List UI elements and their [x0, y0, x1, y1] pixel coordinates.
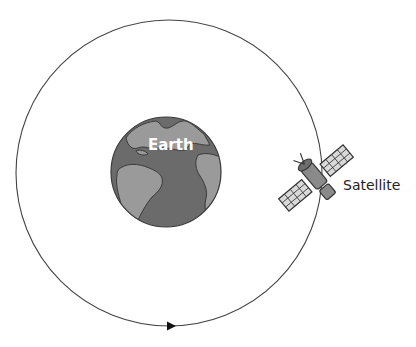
orbit-diagram: Earth Satellite [0, 0, 416, 347]
earth: Earth [111, 117, 224, 230]
earth-label: Earth [148, 136, 194, 154]
orbit-direction-arrow-icon [167, 322, 176, 331]
satellite-label: Satellite [343, 177, 400, 193]
solar-panel-right [320, 145, 353, 177]
solar-panel-left [279, 180, 312, 212]
